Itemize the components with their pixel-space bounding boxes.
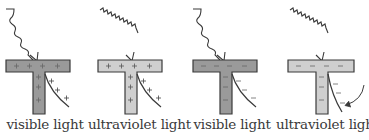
panel-ultraviolet-positive: ultraviolet light <box>92 0 184 140</box>
panel-label: ultraviolet light <box>276 116 369 132</box>
electroscope-diagram <box>0 0 92 116</box>
panel-ultraviolet-negative: ultraviolet light <box>276 0 369 140</box>
gold-leaf <box>137 74 161 107</box>
light-wave-icon <box>290 8 328 33</box>
panel-label: visible light <box>3 116 87 132</box>
light-wave-icon <box>193 9 220 60</box>
light-wave-icon <box>100 8 138 33</box>
gold-leaf <box>45 74 69 107</box>
panel-visible-positive: visible light <box>0 0 92 140</box>
panel-visible-negative: visible light <box>184 0 276 140</box>
panel-label: visible light <box>190 116 274 132</box>
electroscope-diagram <box>184 0 276 116</box>
leaf-minus-signs <box>333 84 345 103</box>
light-wave-icon <box>6 9 33 60</box>
panel-label: ultraviolet light <box>88 116 184 132</box>
gold-leaf <box>232 74 256 107</box>
electroscope-diagram <box>92 0 184 116</box>
electroscope-diagram <box>276 0 369 116</box>
